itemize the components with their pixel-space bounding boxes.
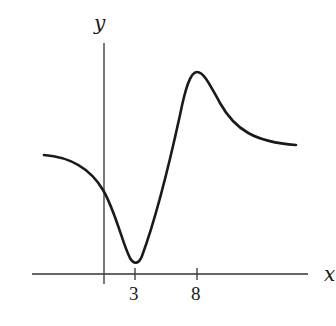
function-curve: [44, 72, 296, 263]
x-axis-label: x: [324, 262, 335, 286]
function-graph: y x 3 8: [0, 0, 336, 326]
y-axis-label: y: [93, 11, 106, 35]
x-tick-label-3: 3: [129, 283, 139, 304]
x-tick-label-8: 8: [191, 283, 201, 304]
